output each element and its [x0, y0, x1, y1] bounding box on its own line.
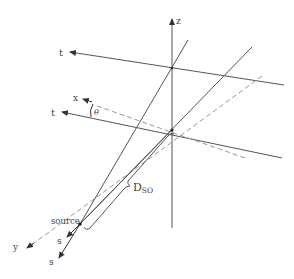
s-arrow-outer: [59, 224, 80, 258]
label-theta: θ: [94, 108, 99, 117]
t-axis-upper: [70, 52, 284, 85]
label-t-lower: t: [51, 107, 55, 118]
label-z: z: [176, 16, 181, 26]
central-ray: [80, 130, 172, 224]
label-source: source: [51, 216, 80, 226]
label-y: y: [12, 242, 19, 252]
label-s-outer: s: [49, 257, 54, 267]
label-dso-main: D: [133, 181, 142, 194]
label-x: x: [73, 93, 78, 103]
label-s-inner: s: [57, 236, 62, 246]
geometry-diagram: z t t x θ y source s s DSO: [0, 0, 294, 279]
label-t-upper: t: [59, 47, 63, 58]
x-axis-dashed: [97, 106, 245, 158]
label-dso-sub: SO: [142, 186, 153, 195]
theta-arc: [90, 104, 93, 117]
dso-brace: [84, 133, 174, 229]
upper-point: [171, 67, 173, 69]
label-dso: DSO: [133, 181, 153, 195]
diagram-canvas: z t t x θ y source s s DSO: [0, 0, 294, 279]
origin-point: [170, 128, 173, 131]
x-axis-arrow: [83, 99, 92, 102]
y-axis-arrow: [27, 243, 34, 248]
